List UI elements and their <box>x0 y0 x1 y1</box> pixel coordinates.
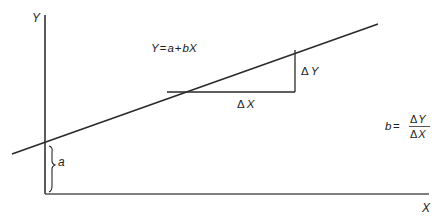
y-axis-label: Y <box>32 11 41 25</box>
svg-text:b: b <box>385 120 392 132</box>
delta-y-label: ΔY <box>301 65 320 77</box>
x-axis-label: X <box>421 201 431 215</box>
intercept-brace <box>49 146 55 192</box>
regression-equation: Y=a+bX <box>151 42 198 54</box>
intercept-label: a <box>58 155 65 169</box>
regression-diagram: Y X Y=a+bX a ΔY ΔX b = ΔY ΔX <box>0 0 440 222</box>
svg-text:ΔX: ΔX <box>410 128 426 140</box>
slope-formula: b = ΔY ΔX <box>385 113 430 140</box>
svg-text:Y=a+bX: Y=a+bX <box>151 42 198 54</box>
svg-text:ΔY: ΔY <box>410 113 426 125</box>
svg-text:=: = <box>393 120 400 132</box>
delta-x-label: ΔX <box>237 98 256 110</box>
